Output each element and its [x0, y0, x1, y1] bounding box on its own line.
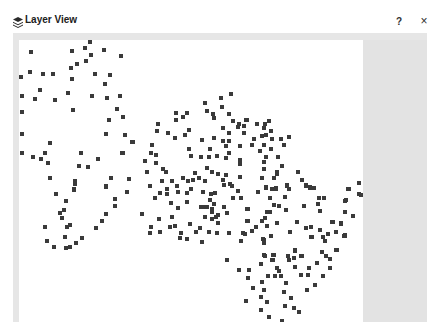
- layer-point: [175, 184, 179, 188]
- layer-point: [318, 228, 322, 232]
- layer-point: [174, 118, 178, 122]
- layer-point: [220, 105, 224, 109]
- layer-point: [343, 210, 347, 214]
- layer-point: [219, 96, 223, 100]
- layer-point: [231, 119, 235, 123]
- layer-point: [203, 101, 207, 105]
- layer-point: [289, 296, 293, 300]
- layer-point: [94, 226, 98, 230]
- layer-point: [213, 191, 217, 195]
- layer-point: [181, 176, 185, 180]
- layer-point: [335, 248, 339, 252]
- layer-point: [277, 204, 281, 208]
- layer-point: [270, 137, 274, 141]
- layer-point: [150, 143, 154, 147]
- layer-point: [258, 149, 262, 153]
- layer-point: [174, 111, 178, 115]
- layer-point: [153, 196, 157, 200]
- layer-point: [280, 319, 284, 322]
- layer-point: [86, 165, 90, 169]
- layer-point: [262, 167, 266, 171]
- layer-point: [259, 295, 263, 299]
- layer-point: [343, 199, 347, 203]
- layer-point: [156, 122, 160, 126]
- layers-icon: [13, 14, 23, 25]
- layer-point: [203, 179, 207, 183]
- layer-point: [20, 110, 24, 114]
- layer-point: [271, 253, 275, 257]
- layer-point: [168, 225, 172, 229]
- layer-point: [265, 224, 269, 228]
- layer-point: [236, 125, 240, 129]
- layer-point: [119, 54, 123, 58]
- layer-point: [140, 212, 144, 216]
- layer-point: [214, 215, 218, 219]
- layer-point: [113, 197, 117, 201]
- layer-point: [69, 66, 73, 70]
- layer-point: [109, 176, 113, 180]
- layer-point: [186, 179, 190, 183]
- layer-point: [309, 235, 313, 239]
- layer-point: [229, 92, 233, 96]
- layer-point: [143, 159, 147, 163]
- layer-point: [322, 196, 326, 200]
- layer-point: [176, 190, 180, 194]
- layer-point: [222, 205, 226, 209]
- layer-point: [178, 236, 182, 240]
- window-title: Layer View: [25, 14, 77, 26]
- layer-point: [203, 215, 207, 219]
- layer-point: [295, 220, 299, 224]
- layer-point: [242, 124, 246, 128]
- layer-point: [216, 172, 220, 176]
- layer-point: [268, 210, 272, 214]
- layer-point: [262, 143, 266, 147]
- layer-point: [287, 135, 291, 139]
- layer-point: [252, 137, 256, 141]
- layer-point: [43, 151, 47, 155]
- layer-point: [102, 48, 106, 52]
- layer-point: [238, 162, 242, 166]
- layer-point: [283, 304, 287, 308]
- layer-point: [215, 231, 219, 235]
- layer-point: [125, 190, 129, 194]
- layer-point: [269, 129, 273, 133]
- layer-point: [264, 186, 268, 190]
- layer-point: [351, 214, 355, 218]
- layer-point: [300, 178, 304, 182]
- layer-point: [131, 140, 135, 144]
- layer-point: [90, 94, 94, 98]
- layer-point: [212, 202, 216, 206]
- layer-point: [70, 77, 74, 81]
- layer-point: [200, 240, 204, 244]
- layer-point: [20, 94, 24, 98]
- layer-point: [185, 237, 189, 241]
- layer-point: [208, 147, 212, 151]
- layer-point: [250, 143, 254, 147]
- layer-canvas[interactable]: [19, 40, 363, 322]
- layer-point: [334, 230, 338, 234]
- layer-point: [104, 212, 108, 216]
- layer-point: [239, 239, 243, 243]
- layer-point: [267, 315, 271, 319]
- layer-point: [193, 171, 197, 175]
- layer-point: [121, 115, 125, 119]
- close-button[interactable]: ×: [418, 14, 430, 28]
- layer-point: [317, 196, 321, 200]
- layer-point: [227, 151, 231, 155]
- side-gray-area: [363, 40, 427, 322]
- layer-point: [205, 205, 209, 209]
- layer-point: [105, 96, 109, 100]
- layer-point: [304, 226, 308, 230]
- layer-point: [279, 274, 283, 278]
- layer-point: [185, 191, 189, 195]
- layer-point: [46, 161, 50, 165]
- layer-point: [269, 234, 273, 238]
- layer-point: [210, 210, 214, 214]
- layer-point: [265, 300, 269, 304]
- help-button[interactable]: ?: [393, 15, 405, 29]
- layer-point: [307, 266, 311, 270]
- layer-point: [154, 161, 158, 165]
- layer-point: [73, 182, 77, 186]
- layer-point: [149, 151, 153, 155]
- layer-point: [79, 151, 83, 155]
